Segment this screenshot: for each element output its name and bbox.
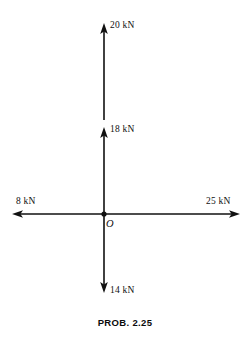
force-diagram-canvas [0,0,250,348]
origin-label: O [106,219,114,230]
force-label-14kn: 14 kN [110,286,135,296]
vector-25kn [104,210,240,218]
force-label-25kn: 25 kN [206,197,231,207]
force-label-20kn: 20 kN [110,21,135,31]
figure-caption: PROB. 2.25 [0,317,250,328]
vector-20kn [100,23,108,120]
vector-8kn [12,210,104,218]
vector-18kn [100,127,108,214]
force-label-8kn: 8 kN [16,197,36,207]
force-label-18kn: 18 kN [110,125,135,135]
origin-point [101,211,106,216]
force-diagram-figure: 20 kN 18 kN 14 kN 8 kN 25 kN O PROB. 2.2… [0,0,250,348]
